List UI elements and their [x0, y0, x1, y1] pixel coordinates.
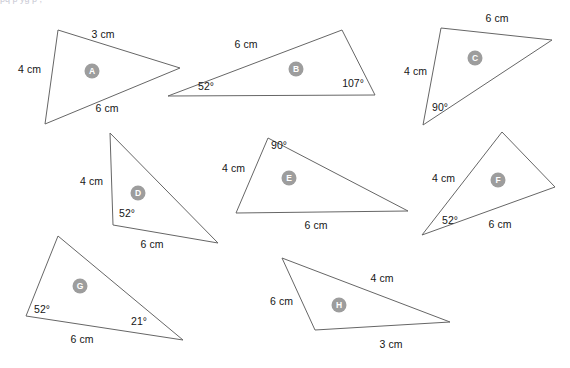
triangle-c: 6 cm4 cm90°C: [404, 12, 552, 125]
triangle-f-side-left: 4 cm: [432, 172, 455, 184]
triangle-h-side-bottom: 3 cm: [379, 338, 402, 350]
triangle-g-side-bottom: 6 cm: [70, 333, 93, 345]
triangle-d-angle-bottom-left: 52°: [119, 207, 135, 219]
triangle-b-badge-label: B: [293, 64, 299, 74]
triangle-b-angle-right: 107°: [342, 77, 364, 89]
triangle-worksheet-canvas: 3 cm4 cm6 cmA6 cm52°107°B6 cm4 cm90°C4 c…: [0, 0, 570, 368]
triangle-d-badge-label: D: [135, 188, 141, 198]
triangle-g-angle-left: 52°: [34, 303, 50, 315]
triangle-a: 3 cm4 cm6 cmA: [18, 28, 180, 124]
triangle-c-side-top: 6 cm: [485, 12, 508, 24]
triangle-d-side-bottom: 6 cm: [140, 238, 163, 250]
triangle-outline-d: [110, 133, 218, 243]
triangle-g-badge-label: G: [77, 281, 84, 291]
triangle-h-side-left: 6 cm: [270, 295, 293, 307]
triangle-d: 4 cm52°6 cmD: [80, 133, 218, 250]
triangle-e-angle-top: 90°: [271, 139, 287, 151]
triangle-f: 4 cm52°6 cmF: [422, 132, 555, 235]
triangle-e-side-bottom: 6 cm: [304, 219, 327, 231]
triangle-d-side-left: 4 cm: [80, 175, 103, 187]
triangle-b: 6 cm52°107°B: [168, 30, 375, 96]
triangle-g: 52°21°6 cmG: [26, 236, 183, 345]
triangle-g-angle-right: 21°: [131, 315, 147, 327]
triangle-c-side-left: 4 cm: [404, 65, 427, 77]
triangle-b-side-top: 6 cm: [234, 38, 257, 50]
triangle-a-side-bottom: 6 cm: [95, 102, 118, 114]
triangle-outline-h: [282, 258, 450, 330]
triangle-b-angle-left: 52°: [198, 80, 214, 92]
triangle-f-side-bottom: 6 cm: [488, 218, 511, 230]
triangle-outline-g: [26, 236, 183, 340]
triangle-a-side-left: 4 cm: [18, 63, 41, 75]
triangle-f-badge-label: F: [495, 175, 500, 185]
triangle-a-badge-label: A: [89, 66, 95, 76]
triangle-c-angle-bottom: 90°: [432, 101, 448, 113]
triangle-h-badge-label: H: [336, 300, 342, 310]
triangle-c-badge-label: C: [472, 53, 478, 63]
triangle-e-side-left: 4 cm: [222, 162, 245, 174]
triangle-e-badge-label: E: [286, 173, 292, 183]
triangle-outline-e: [236, 138, 408, 213]
triangle-e: 90°4 cm6 cmE: [222, 138, 408, 231]
triangle-h: 4 cm6 cm3 cmH: [270, 258, 450, 350]
triangle-a-side-top: 3 cm: [91, 28, 114, 40]
triangle-h-side-top: 4 cm: [370, 272, 393, 284]
triangle-f-angle-bottom-left: 52°: [442, 214, 458, 226]
